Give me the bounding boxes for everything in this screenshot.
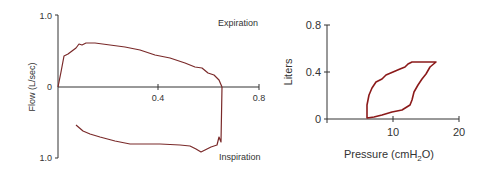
x-tick-label-10: 10 — [387, 126, 399, 138]
y-tick-label-zero: 0 — [47, 82, 52, 92]
y-axis-label: Flow (L/sec) — [27, 62, 37, 111]
y-tick-label-04: 0.4 — [306, 66, 321, 78]
pressure-volume-chart: 0.8 0.4 0 10 20 Liters Pressure (cmH2O) — [282, 19, 465, 163]
y-tick-label-0: 0 — [315, 113, 321, 125]
pressure-volume-loop — [367, 62, 436, 118]
x-tick-label-20: 20 — [453, 126, 465, 138]
y-tick-label-bottom: 1.0 — [39, 153, 52, 163]
x-tick-label-08: 0.8 — [253, 93, 266, 103]
x-axis-label-main: Pressure (cmH — [344, 148, 417, 160]
expiration-curve — [58, 43, 222, 87]
x-axis-label-end: O) — [422, 148, 434, 160]
x-axis-label: Pressure (cmH2O) — [344, 148, 434, 163]
y-tick-label-08: 0.8 — [306, 19, 321, 31]
y-tick-label-top: 1.0 — [39, 11, 52, 21]
inspiration-curve — [76, 87, 222, 152]
flow-volume-chart: 1.0 0 1.0 0.4 0.8 Flow (L/sec) Expiratio… — [27, 11, 265, 163]
y-axis-label: Liters — [282, 58, 294, 85]
inspiration-label: Inspiration — [219, 152, 261, 162]
expiration-label: Expiration — [218, 18, 258, 28]
x-tick-label-04: 0.4 — [152, 93, 165, 103]
figure: 1.0 0 1.0 0.4 0.8 Flow (L/sec) Expiratio… — [0, 0, 487, 169]
